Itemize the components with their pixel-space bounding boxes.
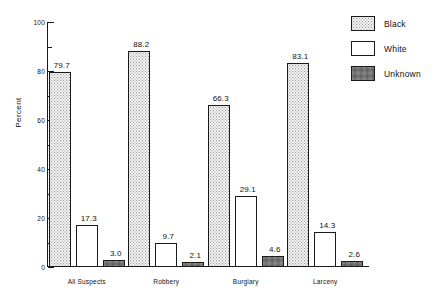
- legend-label-white: White: [384, 44, 407, 54]
- legend-swatch-unknown-icon: [351, 66, 375, 81]
- bar-value-label: 2.1: [181, 251, 209, 260]
- bar-unknown-all-suspects: [103, 260, 125, 267]
- x-axis-group-label: Larceny: [285, 278, 365, 286]
- plot-area: 79.717.33.088.29.72.166.329.14.683.114.3…: [47, 22, 365, 267]
- x-axis-group-label: All Suspects: [47, 278, 127, 286]
- legend-swatch-white-icon: [351, 41, 375, 56]
- bar-value-label: 79.7: [48, 61, 76, 70]
- bar-chart: Percent 020406080100 79.717.33.088.29.72…: [0, 0, 436, 305]
- chart-legend: Black White Unknown: [351, 16, 433, 91]
- bar-black-robbery: [128, 51, 150, 267]
- x-axis-group-label: Robbery: [126, 278, 206, 286]
- bar-value-label: 66.3: [207, 94, 235, 103]
- bar-white-robbery: [155, 243, 177, 267]
- bar-value-label: 17.3: [75, 214, 103, 223]
- bar-unknown-larceny: [341, 261, 363, 267]
- y-tick-label: 0: [15, 264, 45, 271]
- bar-black-burglary: [208, 105, 230, 267]
- bar-value-label: 4.6: [261, 245, 289, 254]
- y-tick-major: [48, 267, 54, 268]
- legend-item-white: White: [351, 41, 433, 58]
- bar-value-label: 83.1: [286, 52, 314, 61]
- bar-white-larceny: [314, 232, 336, 267]
- bar-value-label: 2.6: [340, 250, 368, 259]
- legend-label-black: Black: [384, 19, 406, 29]
- bar-black-larceny: [287, 63, 309, 267]
- y-tick-label: 40: [15, 166, 45, 173]
- bar-white-all-suspects: [76, 225, 98, 267]
- legend-swatch-black-icon: [351, 16, 375, 31]
- y-tick-label: 20: [15, 215, 45, 222]
- y-tick-label: 60: [15, 117, 45, 124]
- bar-black-all-suspects: [49, 72, 71, 267]
- bar-value-label: 14.3: [313, 221, 341, 230]
- bar-white-burglary: [235, 196, 257, 267]
- y-tick-label: 100: [15, 19, 45, 26]
- legend-label-unknown: Unknown: [384, 69, 421, 79]
- x-axis-group-label: Burglary: [206, 278, 286, 286]
- bar-unknown-robbery: [182, 262, 204, 267]
- legend-item-unknown: Unknown: [351, 66, 433, 83]
- y-tick-label: 80: [15, 68, 45, 75]
- bar-value-label: 9.7: [154, 232, 182, 241]
- bar-unknown-burglary: [262, 256, 284, 267]
- bar-value-label: 88.2: [127, 40, 155, 49]
- bar-value-label: 29.1: [234, 185, 262, 194]
- bar-value-label: 3.0: [102, 249, 130, 258]
- legend-item-black: Black: [351, 16, 433, 33]
